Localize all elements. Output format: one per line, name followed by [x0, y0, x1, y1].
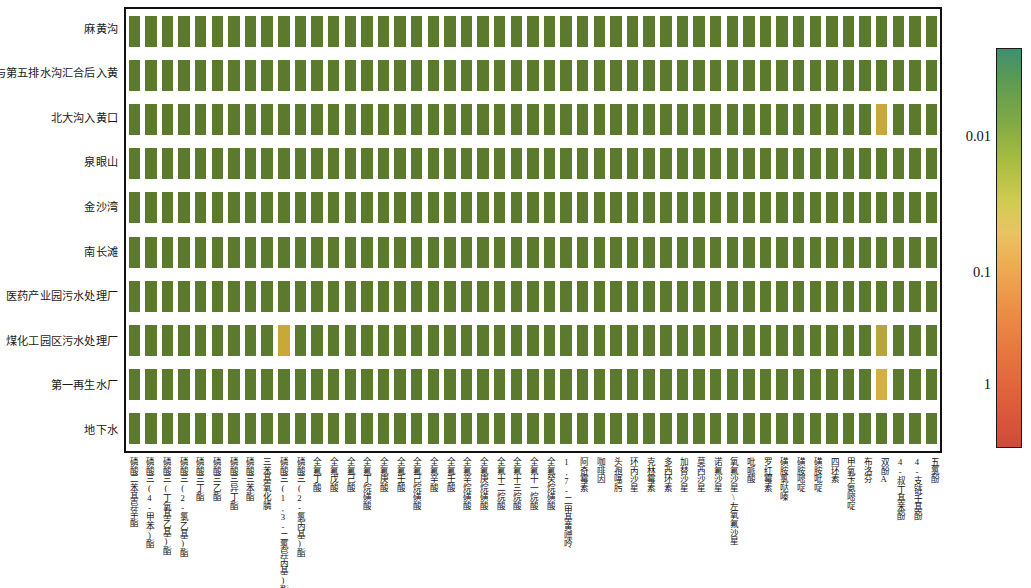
heatmap-cell [129, 192, 140, 223]
heatmap-cell [428, 281, 439, 312]
heatmap-cell [776, 148, 787, 179]
heatmap-cell [810, 281, 821, 312]
heatmap-cell [710, 325, 721, 356]
heatmap-cell [461, 60, 472, 91]
heatmap-cell [295, 325, 306, 356]
heatmap-cell [261, 325, 272, 356]
heatmap-cell [577, 192, 588, 223]
x-axis-label: 全氟庚烷磺酸 [478, 457, 487, 509]
heatmap-cell [727, 16, 738, 47]
heatmap-cell [577, 237, 588, 268]
heatmap-cell [693, 16, 704, 47]
heatmap-cell [129, 281, 140, 312]
heatmap-cell [677, 104, 688, 135]
heatmap-cell [212, 192, 223, 223]
heatmap-cell [760, 148, 771, 179]
heatmap-cell [328, 237, 339, 268]
heatmap-cell [361, 104, 372, 135]
x-axis-label: 磷酸三乙酯 [211, 457, 220, 501]
x-axis-column: 磷酸三(1,3-二氯异丙基)酯 [274, 455, 291, 588]
heatmap-cell [178, 413, 189, 444]
colorbar-tick-label: 0.1 [973, 264, 991, 281]
heatmap-cell [710, 60, 721, 91]
colorbar-tick-label: 1 [984, 376, 991, 393]
heatmap-cell [893, 16, 904, 47]
heatmap-cell [311, 281, 322, 312]
heatmap-cell [361, 237, 372, 268]
heatmap-cell [610, 148, 621, 179]
heatmap-cell [643, 413, 654, 444]
heatmap-cell [577, 148, 588, 179]
heatmap-cell [212, 148, 223, 179]
heatmap-cell [378, 60, 389, 91]
heatmap-cell [677, 413, 688, 444]
heatmap-cell [295, 281, 306, 312]
heatmap-cell [477, 237, 488, 268]
heatmap-cell [195, 369, 206, 400]
x-axis-label: 罗红霉素 [762, 457, 771, 492]
heatmap-cell [195, 325, 206, 356]
heatmap-cell [195, 16, 206, 47]
heatmap-cell [544, 192, 555, 223]
heatmap-cell [145, 104, 156, 135]
heatmap-cell [760, 237, 771, 268]
heatmap-cell [760, 16, 771, 47]
heatmap-cell [826, 325, 837, 356]
heatmap-cell [245, 325, 256, 356]
heatmap-cell [793, 192, 804, 223]
heatmap-cell [228, 104, 239, 135]
x-axis-column: 加替沙星 [675, 455, 692, 588]
heatmap-cell [859, 148, 870, 179]
heatmap-cell [511, 16, 522, 47]
x-axis-column: 双酚A [875, 455, 892, 588]
heatmap-cell [727, 104, 738, 135]
x-axis-label: 全氟丁酸 [312, 457, 321, 492]
heatmap-cell [826, 192, 837, 223]
heatmap-cell [328, 325, 339, 356]
heatmap-cell [810, 148, 821, 179]
y-axis-row: 金沙湾 [0, 185, 122, 230]
heatmap-cell [461, 281, 472, 312]
heatmap-cell [560, 60, 571, 91]
heatmap-cell [278, 60, 289, 91]
heatmap-cell [594, 369, 605, 400]
x-axis-label: 全氟己烷磺酸 [412, 457, 421, 509]
heatmap-cell [129, 60, 140, 91]
heatmap-cell [793, 148, 804, 179]
heatmap-cell [162, 16, 173, 47]
heatmap-cell [776, 281, 787, 312]
heatmap-cell [145, 325, 156, 356]
y-axis-label: 泉眼山 [84, 157, 118, 168]
y-axis-row: 麻黄沟 [0, 7, 122, 52]
heatmap-cell [261, 413, 272, 444]
heatmap-cell [643, 16, 654, 47]
heatmap-cell [826, 104, 837, 135]
heatmap-cell [411, 148, 422, 179]
heatmap-cell [627, 281, 638, 312]
heatmap-cell [677, 369, 688, 400]
heatmap-cell [162, 281, 173, 312]
heatmap-cell [411, 413, 422, 444]
heatmap-cell [361, 369, 372, 400]
heatmap-cell [511, 325, 522, 356]
heatmap-cell [428, 148, 439, 179]
heatmap-row [126, 97, 940, 141]
heatmap-cell [361, 413, 372, 444]
heatmap-cell [311, 60, 322, 91]
heatmap-cell [145, 148, 156, 179]
heatmap-cell [178, 148, 189, 179]
heatmap-cell [826, 281, 837, 312]
heatmap-cell [295, 369, 306, 400]
heatmap-cell [594, 325, 605, 356]
heatmap-cell [345, 16, 356, 47]
heatmap-cell [793, 104, 804, 135]
x-axis-label: 磷酸二苯基异辛酯 [128, 457, 137, 527]
heatmap-cell [677, 192, 688, 223]
x-axis-column: 磷酸二苯基异辛酯 [124, 455, 141, 588]
x-axis-label: 磷酸三(4-甲苯)酯 [145, 457, 154, 548]
heatmap-cell [178, 192, 189, 223]
heatmap-cell [544, 16, 555, 47]
heatmap-cell [843, 281, 854, 312]
heatmap-cell [228, 413, 239, 444]
heatmap-cell [826, 60, 837, 91]
